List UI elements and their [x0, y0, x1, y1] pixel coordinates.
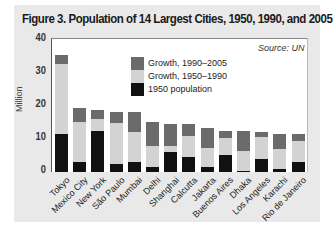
- bar-segment: [91, 119, 104, 131]
- bar-segment: [110, 112, 123, 124]
- y-tick-10: 10: [27, 130, 46, 142]
- legend-label: Growth, 1990–2005: [148, 58, 227, 68]
- bar-s-o-paulo: [110, 39, 123, 172]
- source-note: Source: UN: [258, 43, 305, 53]
- bar-segment: [128, 112, 141, 132]
- bar-segment: [164, 124, 177, 146]
- bar-segment: [55, 55, 68, 64]
- bar-segment: [164, 152, 177, 172]
- bar-karachi: [273, 39, 286, 172]
- bar-segment: [146, 146, 159, 168]
- bar-mexico-city: [73, 39, 86, 172]
- bar-segment: [182, 157, 195, 172]
- bar-segment: [273, 169, 286, 172]
- bar-segment: [237, 131, 250, 152]
- y-tick-30: 30: [27, 64, 46, 76]
- bar-segment: [182, 136, 195, 157]
- bar-segment: [219, 138, 232, 155]
- bar-segment: [182, 124, 195, 136]
- bar-segment: [292, 134, 305, 141]
- bar-segment: [55, 64, 68, 134]
- bar-segment: [91, 110, 104, 119]
- y-tick-40: 40: [27, 31, 46, 43]
- bar-segment: [128, 132, 141, 163]
- bar-tokyo: [55, 39, 68, 172]
- bar-segment: [91, 131, 104, 172]
- bar-los-angeles: [255, 39, 268, 172]
- bar-segment: [73, 162, 86, 172]
- bar-segment: [219, 155, 232, 172]
- y-tick-20: 20: [27, 97, 46, 109]
- legend-label: 1950 population: [148, 84, 212, 94]
- bar-segment: [273, 149, 286, 169]
- y-tick-0: 0: [27, 163, 46, 175]
- y-axis-label: Million: [14, 86, 24, 112]
- legend-label: Growth, 1950–1990: [148, 71, 227, 81]
- legend-swatch: [131, 57, 144, 70]
- bar-segment: [73, 108, 86, 122]
- bar-segment: [237, 171, 250, 172]
- bar-segment: [201, 128, 214, 148]
- bar-segment: [128, 162, 141, 172]
- bar-segment: [110, 164, 123, 172]
- bar-segment: [219, 131, 232, 138]
- bar-segment: [73, 122, 86, 163]
- legend-swatch: [131, 70, 144, 83]
- legend-swatch: [131, 83, 144, 96]
- bar-segment: [164, 146, 177, 152]
- bar-segment: [292, 162, 305, 172]
- bar-segment: [255, 132, 268, 137]
- bar-segment: [237, 151, 250, 170]
- bar-segment: [255, 137, 268, 159]
- bar-segment: [55, 134, 68, 172]
- bar-segment: [201, 167, 214, 172]
- bar-segment: [201, 148, 214, 167]
- bar-new-york: [91, 39, 104, 172]
- bar-rio-de-janeiro: [292, 39, 305, 172]
- bar-segment: [110, 123, 123, 164]
- bar-segment: [146, 122, 159, 145]
- bar-segment: [292, 141, 305, 162]
- bar-dhaka: [237, 39, 250, 172]
- bar-segment: [146, 167, 159, 172]
- figure-title: Figure 3. Population of 14 Largest Citie…: [22, 12, 332, 26]
- bar-segment: [273, 134, 286, 149]
- bar-segment: [255, 159, 268, 172]
